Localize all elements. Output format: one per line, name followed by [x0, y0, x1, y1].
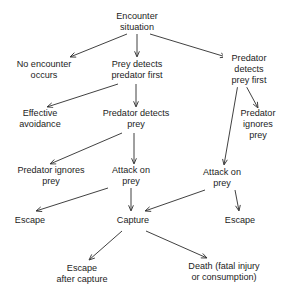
node-predator-ignores-prey-right: Predator ignores prey	[240, 108, 277, 142]
edge-encounter-to-predator-detects	[150, 34, 226, 58]
edge-capture-to-death	[146, 231, 207, 258]
edge-encounter-to-predator-detects-shaft	[150, 34, 225, 57]
node-no-encounter-occurs: No encounter occurs	[16, 59, 73, 81]
node-attack-on-prey-right: Attack on prey	[202, 167, 242, 189]
edge-capture-to-escape-after-shaft	[90, 231, 122, 259]
edge-attack-right-to-capture-shaft	[146, 190, 205, 211]
edge-attack-middle-to-escape-left	[36, 188, 108, 212]
edge-predator-detects-prey-first-to-attack-shaft	[224, 84, 238, 164]
edge-encounter-to-no-encounter-shaft	[71, 34, 127, 57]
node-prey-detects-predator-first: Prey detects predator first	[110, 59, 163, 81]
node-escape-left: Escape	[14, 215, 46, 226]
node-death-fatal-injury: Death (fatal injury or consumption)	[187, 261, 260, 283]
edge-predator-detects-prey-first-to-ignores	[245, 84, 258, 108]
edge-attack-middle-to-capture	[129, 188, 134, 211]
node-predator-ignores-prey-left: Predator ignores prey	[16, 165, 85, 187]
edge-prey-detects-to-predator-detects	[134, 84, 139, 107]
edge-predator-detects-prey-first-to-attack	[223, 84, 238, 165]
edge-attack-middle-to-escape-left-shaft	[37, 188, 108, 211]
node-predator-detects-prey: Predator detects prey	[102, 108, 171, 130]
edge-encounter-to-prey-detects	[135, 34, 140, 57]
node-encounter-situation: Encounter situation	[115, 11, 158, 33]
edge-predator-detects-to-ignores-shaft	[51, 133, 122, 164]
edge-attack-right-to-escape-right-shaft	[235, 190, 239, 210]
node-predator-detects-prey-first: Predator detects prey first	[223, 53, 275, 87]
node-escape-after-capture: Escape after capture	[55, 263, 108, 285]
node-escape-right: Escape	[224, 215, 256, 226]
edge-predator-detects-prey-first-to-ignores-shaft	[245, 84, 258, 107]
edge-capture-to-escape-after	[89, 231, 122, 260]
edge-attack-right-to-escape-right	[235, 190, 240, 211]
edge-predator-detects-to-attack	[132, 133, 137, 164]
edge-capture-to-death-shaft	[146, 231, 206, 258]
arrow-layer	[0, 0, 301, 296]
edge-predator-detects-to-ignores	[50, 133, 122, 164]
edge-prey-detects-to-avoidance	[47, 84, 118, 108]
edge-encounter-to-no-encounter	[70, 34, 127, 57]
edge-attack-right-to-capture	[145, 190, 205, 211]
node-capture: Capture	[116, 215, 150, 226]
node-attack-on-prey-middle: Attack on prey	[111, 165, 151, 187]
node-effective-avoidance: Effective avoidance	[18, 108, 61, 130]
edge-prey-detects-to-avoidance-shaft	[48, 84, 118, 107]
flowchart-diagram: Encounter situationNo encounter occursPr…	[0, 0, 301, 296]
